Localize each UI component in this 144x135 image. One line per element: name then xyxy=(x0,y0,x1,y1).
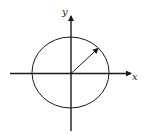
x-axis-label: x xyxy=(132,71,138,82)
radius-arrow xyxy=(71,49,98,74)
circle-diagram: y x xyxy=(0,0,144,135)
y-axis-label: y xyxy=(61,6,68,17)
